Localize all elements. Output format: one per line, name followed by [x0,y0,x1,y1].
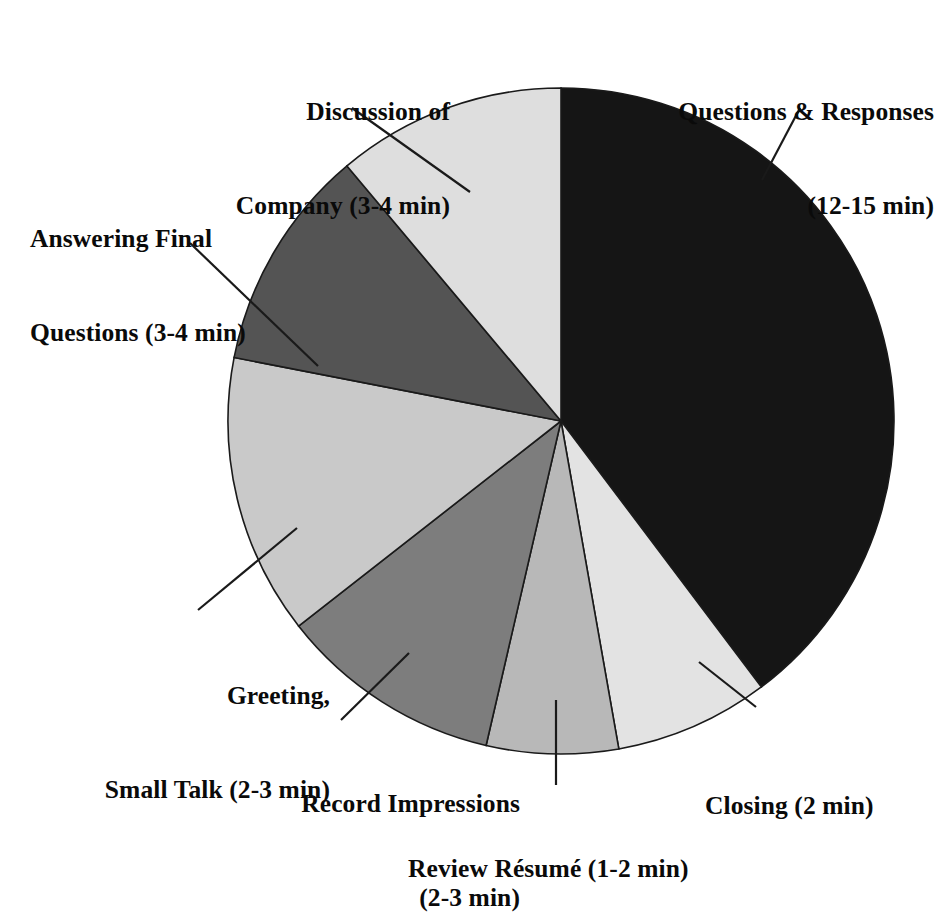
pie-label-questions-responses: Questions & Responses (12-15 min) [568,33,934,284]
pie-label-review-resume: Review Résumé (1-2 min) [408,790,738,916]
pie-label-line2: Questions (3-4 min) [30,317,305,348]
pie-label-line1: Discussion of [150,96,450,127]
pie-label-answering-final: Answering Final Questions (3-4 min) [30,160,305,411]
pie-label-line1: Review Résumé (1-2 min) [408,853,738,884]
pie-label-line1: Answering Final [30,223,305,254]
pie-label-closing: Closing (2 min) [705,727,940,884]
pie-label-line1: Closing (2 min) [705,790,940,821]
pie-label-line2: (12-15 min) [568,190,934,221]
pie-label-line1: Questions & Responses [568,96,934,127]
pie-label-line1: Greeting, [10,680,330,711]
